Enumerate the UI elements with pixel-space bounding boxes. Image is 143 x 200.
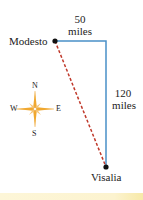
south-distance-value: 120 [110,88,136,99]
bottom-highlight-strip [0,193,143,200]
east-distance-value: 50 [68,14,92,25]
compass-rose-icon [16,91,54,127]
city-label-modesto: Modesto [9,36,48,47]
compass-north-label: N [32,82,38,90]
east-distance-unit: miles [64,26,96,37]
city-label-visalia: Visalia [91,172,122,183]
modesto-dot [52,38,57,43]
direct-distance-line [55,41,106,167]
visalia-dot [103,164,108,169]
compass-west-label: W [10,105,18,113]
south-distance-unit: miles [108,100,140,111]
compass-east-label: E [56,105,61,113]
compass-south-label: S [32,130,36,138]
